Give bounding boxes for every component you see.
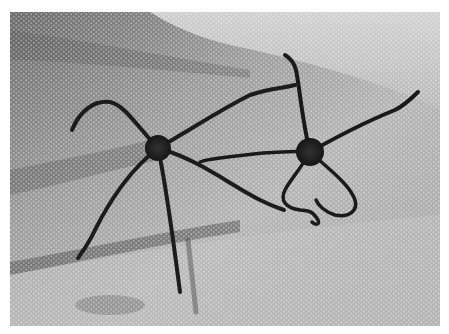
photograph: Two brittle stars on mesh netting: [10, 12, 440, 326]
mesh-texture: [10, 12, 440, 326]
photo-canvas: [10, 12, 440, 326]
